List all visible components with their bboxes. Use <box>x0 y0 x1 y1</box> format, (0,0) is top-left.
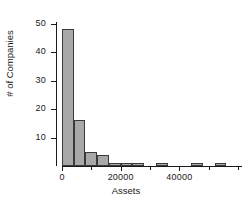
x-tick-mark-minor <box>150 166 151 170</box>
x-tick-mark-minor <box>209 166 210 170</box>
x-tick-label: 20000 <box>98 172 144 182</box>
y-tick-label: 10 <box>24 132 46 142</box>
x-tick-label: 0 <box>39 172 85 182</box>
y-tick-mark <box>51 138 56 139</box>
x-tick-mark-minor <box>238 166 239 170</box>
y-tick-label: 30 <box>24 75 46 85</box>
y-tick-label: 40 <box>24 46 46 56</box>
x-tick-mark <box>62 166 63 171</box>
x-tick-mark <box>179 166 180 171</box>
histogram-figure: 02000040000 1020304050 Assets # of Compa… <box>0 0 252 203</box>
histogram-bar <box>62 29 74 166</box>
y-tick-mark <box>51 109 56 110</box>
x-axis-line <box>62 166 242 167</box>
y-tick-mark <box>51 81 56 82</box>
y-tick-label: 50 <box>24 18 46 28</box>
plot-area <box>62 18 238 166</box>
y-tick-mark <box>51 52 56 53</box>
x-axis-title: Assets <box>0 185 252 196</box>
x-tick-mark <box>121 166 122 171</box>
histogram-bar <box>97 155 109 166</box>
y-tick-label: 20 <box>24 103 46 113</box>
histogram-bar <box>85 152 97 166</box>
y-axis-title: # of Companies <box>4 9 15 119</box>
y-axis-line <box>56 22 57 166</box>
x-tick-mark-minor <box>91 166 92 170</box>
histogram-bar <box>74 120 86 166</box>
x-tick-label: 40000 <box>156 172 202 182</box>
y-tick-mark <box>51 24 56 25</box>
